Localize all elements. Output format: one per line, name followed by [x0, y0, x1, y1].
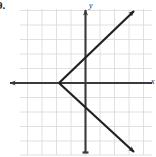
graph-canvas	[0, 0, 156, 157]
y-axis-label: y	[89, 1, 93, 10]
x-axis-label: x	[151, 77, 155, 86]
lower-ray	[59, 83, 134, 152]
coordinate-plane-figure: 9. y x	[0, 0, 156, 157]
upper-ray	[59, 11, 134, 83]
problem-number: 9.	[0, 0, 5, 11]
